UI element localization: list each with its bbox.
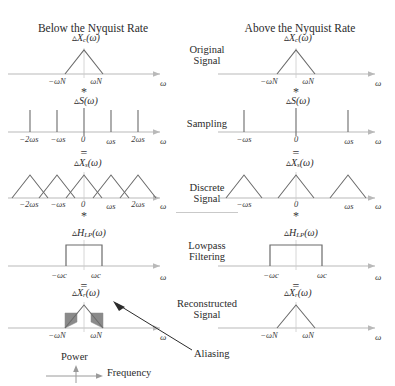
tick-left-reconstructed-negwN: −ωN bbox=[42, 330, 72, 340]
tick-right-reconstructed-wN: ωN bbox=[296, 330, 320, 340]
tick-left-sampling-2ws: 2ωs bbox=[124, 134, 152, 144]
aliasing-label: Aliasing bbox=[194, 348, 230, 359]
operator-right-multiply: * bbox=[286, 209, 306, 224]
legend-power-label: Power bbox=[61, 351, 88, 362]
axis-label-left-discrete-omega: ω bbox=[160, 201, 166, 211]
function-label-right-discrete: ▵Xs(ω) bbox=[286, 157, 314, 168]
tick-left-lowpass-negwc: −ωc bbox=[44, 270, 74, 280]
aliasing-arrow bbox=[100, 298, 200, 356]
tick-left-sampling-negws: −ωs bbox=[44, 134, 72, 144]
tick-right-lowpass-negwc: −ωc bbox=[256, 270, 286, 280]
function-label-right-lowpass: ▵HLP(ω) bbox=[284, 227, 318, 238]
function-label-left-original: ▵Xc(ω) bbox=[72, 32, 100, 43]
tick-left-original-negwN: −ωN bbox=[42, 76, 72, 86]
axis-label-left-lowpass-omega: ω bbox=[160, 272, 166, 282]
tick-right-discrete-zero: 0 bbox=[289, 199, 303, 209]
axis-label-left-sampling-omega: ω bbox=[160, 136, 166, 146]
axis-label-right-discrete-omega: ω bbox=[375, 201, 381, 211]
tick-left-discrete-zero: 0 bbox=[76, 199, 90, 209]
function-label-left-sampling: ▵S(ω) bbox=[74, 95, 98, 106]
axis-label-right-sampling-omega: ω bbox=[375, 136, 381, 146]
axis-label-right-reconstructed-omega: ω bbox=[375, 332, 381, 342]
function-label-left-lowpass: ▵HLP(ω) bbox=[72, 227, 106, 238]
divider-center bbox=[176, 212, 238, 213]
plot-left-original bbox=[8, 38, 168, 80]
tick-right-discrete-negws: −ωs bbox=[230, 199, 258, 209]
tick-right-lowpass-wc: ωc bbox=[310, 270, 334, 280]
tick-left-discrete-negws: −ωs bbox=[44, 199, 72, 209]
tick-left-discrete-neg2ws: −2ωs bbox=[12, 199, 46, 209]
tick-left-discrete-ws: ωs bbox=[100, 201, 122, 211]
tick-right-original-negwN: −ωN bbox=[254, 76, 284, 86]
function-label-right-sampling: ▵S(ω) bbox=[286, 95, 310, 106]
axis-label-right-original-omega: ω bbox=[375, 78, 381, 88]
tick-left-sampling-neg2ws: −2ωs bbox=[12, 134, 46, 144]
tick-right-sampling-zero: 0 bbox=[289, 134, 303, 144]
legend-axes-icon bbox=[40, 363, 112, 385]
function-label-right-reconstructed: ▵Xr(ω) bbox=[284, 287, 312, 298]
tick-right-sampling-negws: −ωs bbox=[230, 134, 258, 144]
tick-left-sampling-ws: ωs bbox=[100, 136, 122, 146]
legend-frequency-label: Frequency bbox=[107, 367, 151, 378]
tick-left-discrete-2ws: 2ωs bbox=[124, 199, 152, 209]
function-label-left-discrete: ▵Xs(ω) bbox=[74, 157, 102, 168]
tick-left-sampling-zero: 0 bbox=[76, 134, 90, 144]
function-label-left-reconstructed: ▵Xr(ω) bbox=[72, 287, 100, 298]
function-label-right-original: ▵Xc(ω) bbox=[284, 32, 312, 43]
figure-root: Below the Nyquist Rate Above the Nyquist… bbox=[0, 0, 395, 386]
operator-left-multiply: * bbox=[74, 209, 94, 224]
tick-right-reconstructed-negwN: −ωN bbox=[254, 330, 284, 340]
tick-right-discrete-ws: ωs bbox=[338, 201, 360, 211]
axis-label-right-lowpass-omega: ω bbox=[375, 272, 381, 282]
axis-label-left-original-omega: ω bbox=[160, 78, 166, 88]
plot-right-original bbox=[218, 38, 383, 80]
tick-right-sampling-ws: ωs bbox=[338, 136, 360, 146]
